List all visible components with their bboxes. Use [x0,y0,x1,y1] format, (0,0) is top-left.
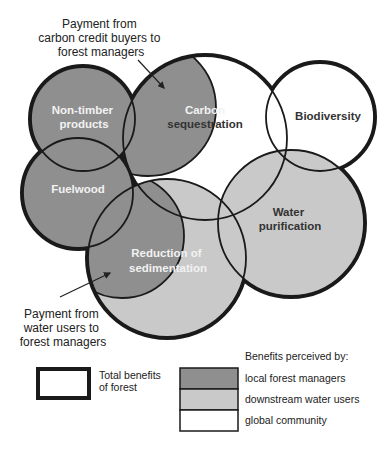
legend-total-benefits-label-2: of forest [99,381,137,393]
water-payment-annotation-1: Payment from [24,307,99,321]
svg-text:Carbon: Carbon [185,104,225,116]
svg-text:Payment from carbon credit: Payment from carbon credit buyers to for… [38,17,163,59]
label-fuelwood: Fuelwood [51,183,105,195]
legend-swatch-downstream [180,389,238,410]
label-sedimentation-2: sedimentation [129,262,207,274]
label-water-2: purification [259,220,322,232]
legend-label-local: local forest managers [245,372,345,384]
svg-text:Payment from water users t: Payment from water users to forest manag… [20,307,107,349]
carbon-payment-annotation-2: carbon credit buyers to [38,31,160,45]
water-payment-annotation-3: forest managers [20,335,107,349]
legend-swatch-global [180,410,238,431]
forest-benefits-venn-diagram: Non-timber products Carbon sequestration… [0,0,392,453]
legend-total-benefits-swatch [38,369,89,398]
label-non-timber-2: products [59,118,108,130]
legend-label-global: global community [245,414,327,426]
legend-total-benefits-label: Total benefits [99,369,161,381]
svg-text:Total benefits of forest: Total benefits of forest [99,369,164,393]
label-carbon: Carbon [185,104,225,116]
water-payment-annotation-2: water users to [23,321,100,335]
label-carbon-2: sequestration [167,118,242,130]
legend-label-downstream: downstream water users [245,393,359,405]
label-biodiversity: Biodiversity [295,110,361,122]
legend-perceived-title: Benefits perceived by: [245,350,348,362]
svg-text:sequestration: sequestration [167,118,242,130]
label-non-timber: Non-timber [52,104,114,116]
label-water: Water [273,206,305,218]
label-sedimentation: Reduction of [131,247,201,259]
legend-swatch-local [180,368,238,389]
carbon-payment-annotation-1: Payment from [62,17,137,31]
carbon-payment-annotation-3: forest managers [58,45,145,59]
